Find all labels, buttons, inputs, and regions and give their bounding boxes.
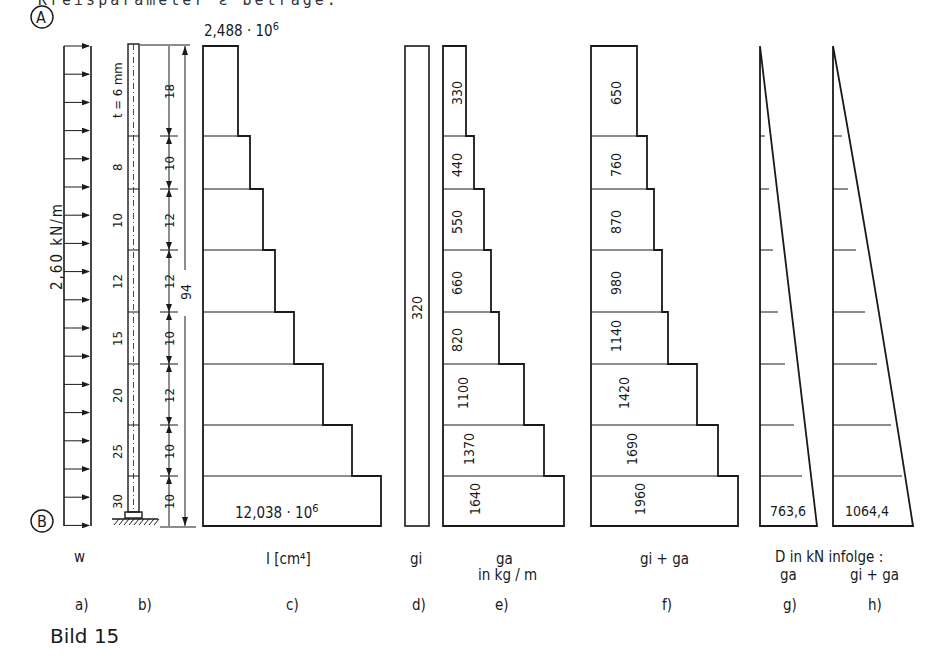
point-a-label: A: [36, 8, 46, 27]
segment-thickness-label: 30: [110, 494, 125, 509]
gi-ga-value: 980: [608, 271, 624, 295]
axial-gi-ga-caption: gi + ga: [850, 566, 899, 584]
axial-ga-value: 763,6: [770, 503, 806, 519]
subfigure-label: f): [662, 596, 672, 614]
wind-load-value: 2,60 kN/m: [48, 202, 66, 290]
segment-thickness-label: 20: [110, 388, 125, 403]
axial-force-gi-ga-diagram: [833, 46, 913, 526]
subfigure-label: e): [495, 596, 509, 614]
axial-force-ga-diagram: [760, 46, 817, 526]
axial-gi-ga-value: 1064,4: [845, 503, 889, 519]
thickness-label: t = 6 mm: [110, 62, 125, 118]
gi-ga-caption: gi + ga: [640, 550, 689, 568]
segment-length-label: 12: [162, 388, 177, 403]
segment-length-label: 10: [162, 156, 177, 171]
inertia-step-diagram: [203, 46, 381, 526]
gi-ga-value: 1690: [624, 432, 640, 464]
inertia-caption: I [cm⁴]: [266, 550, 311, 568]
segment-length-label: 10: [162, 331, 177, 346]
segment-length-label: 10: [162, 444, 177, 459]
axial-heading: D in kN infolge :: [775, 548, 883, 566]
ga-value: 330: [449, 81, 465, 105]
ga-value: 820: [449, 328, 465, 352]
gi-caption: gi: [410, 550, 422, 568]
gi-ga-value: 760: [608, 152, 624, 176]
segment-thickness-label: 12: [110, 274, 125, 289]
segment-length-label: 12: [162, 274, 177, 289]
segment-length-label: 12: [162, 213, 177, 228]
subfigure-label: g): [783, 596, 797, 614]
ga-value: 660: [449, 271, 465, 295]
subfigure-label: a): [75, 596, 89, 614]
segment-thickness-label: 25: [110, 444, 125, 459]
segment-length-label: 18: [162, 84, 177, 99]
inertia-top-label: 2,488 · 106: [204, 20, 279, 40]
gi-bar: [405, 46, 429, 526]
gi-ga-value: 1140: [608, 320, 624, 352]
subfigure-label: c): [286, 596, 299, 614]
subfigure-label: b): [138, 596, 152, 614]
point-b-label: B: [37, 512, 47, 531]
ga-value: 440: [449, 152, 465, 176]
ga-value: 550: [449, 209, 465, 233]
segment-length-label: 10: [162, 494, 177, 509]
figure-title: Bild 15: [50, 624, 119, 648]
gi-value: 320: [409, 296, 425, 320]
ga-value: 1640: [467, 483, 483, 515]
wind-load-symbol: w: [74, 548, 85, 566]
subfigure-label: d): [412, 596, 426, 614]
wind-load-diagram: [64, 46, 91, 526]
gi-ga-value: 650: [608, 81, 624, 105]
ga-value: 1100: [455, 376, 471, 408]
axial-ga-caption: ga: [780, 566, 797, 584]
segment-thickness-label: 8: [110, 163, 125, 170]
inertia-bottom-label: 12,038 · 106: [235, 502, 319, 522]
subfigure-label: h): [868, 596, 882, 614]
gi-ga-value: 1420: [616, 376, 632, 408]
segment-thickness-label: 15: [110, 331, 125, 346]
segment-thickness-label: 10: [110, 213, 125, 228]
gi-ga-value: 1960: [632, 483, 648, 515]
gi-ga-value: 870: [608, 209, 624, 233]
ga-unit: in kg / m: [478, 566, 537, 584]
total-length-label: 94: [178, 284, 194, 300]
ga-value: 1370: [461, 432, 477, 464]
